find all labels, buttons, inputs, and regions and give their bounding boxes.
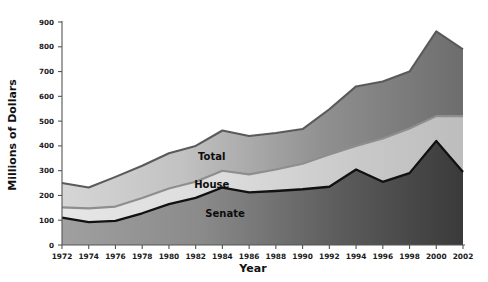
x-tick-label: 1990 (292, 252, 313, 261)
y-axis-ticks (58, 22, 62, 245)
x-tick-label: 1996 (373, 252, 394, 261)
y-tick-label: 400 (39, 141, 54, 150)
x-tick-label: 1984 (212, 252, 233, 261)
x-tick-label: 1992 (319, 252, 340, 261)
y-tick-label: 600 (39, 92, 54, 101)
x-tick-label: 1982 (185, 252, 206, 261)
y-tick-label: 700 (39, 67, 54, 76)
x-tick-label: 1978 (132, 252, 153, 261)
x-tick-label: 1998 (399, 252, 420, 261)
y-tick-label: 200 (39, 191, 54, 200)
y-axis-title: Millions of Dollars (6, 79, 19, 191)
plot-areas (62, 31, 463, 245)
x-axis-title: Year (238, 262, 267, 275)
series-label-senate: Senate (205, 208, 245, 219)
x-tick-label: 2000 (426, 252, 447, 261)
x-tick-label: 1980 (159, 252, 180, 261)
area-chart: 0100200300400500600700800900 19721974197… (0, 0, 488, 282)
y-tick-label: 800 (39, 42, 54, 51)
series-label-house: House (194, 179, 229, 190)
x-tick-label: 2002 (453, 252, 474, 261)
y-tick-label: 900 (39, 18, 54, 27)
y-tick-label: 500 (39, 117, 54, 126)
y-axis-tick-labels: 0100200300400500600700800900 (39, 18, 54, 250)
x-axis-ticks (62, 245, 463, 249)
x-tick-label: 1994 (346, 252, 367, 261)
y-tick-label: 100 (39, 216, 54, 225)
x-axis-tick-labels: 1972197419761978198019821984198619881990… (52, 252, 474, 261)
y-tick-label: 300 (39, 166, 54, 175)
chart-container: 0100200300400500600700800900 19721974197… (0, 0, 488, 282)
series-label-total: Total (198, 151, 225, 162)
x-tick-label: 1988 (266, 252, 287, 261)
x-tick-label: 1986 (239, 252, 260, 261)
x-tick-label: 1972 (52, 252, 73, 261)
x-tick-label: 1974 (78, 252, 99, 261)
x-tick-label: 1976 (105, 252, 126, 261)
y-tick-label: 0 (49, 241, 54, 250)
